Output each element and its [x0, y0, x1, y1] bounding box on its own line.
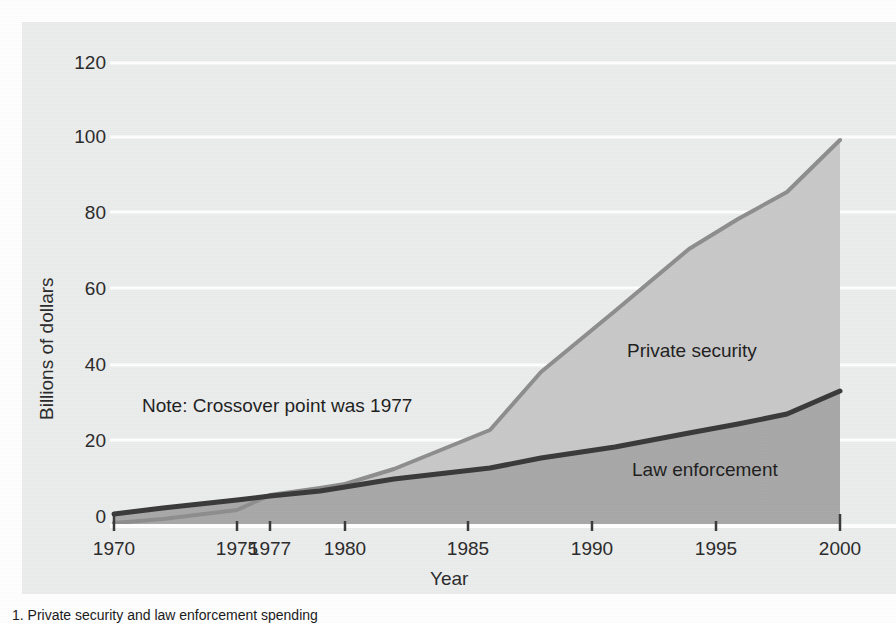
y-tick-label-80: 80 — [46, 202, 106, 224]
figure-caption: 1. Private security and law enforcement … — [12, 607, 318, 623]
figure-container: 120 100 80 60 40 20 0 1970 1975 1977 198… — [0, 0, 896, 623]
x-tick-label-1995: 1995 — [676, 538, 756, 560]
chart-plot-area — [0, 0, 896, 623]
x-tick-label-1985: 1985 — [428, 538, 508, 560]
y-tick-label-0: 0 — [46, 506, 106, 528]
y-tick-label-20: 20 — [46, 430, 106, 452]
x-tick-label-1980: 1980 — [305, 538, 385, 560]
x-tick-label-1970: 1970 — [74, 538, 154, 560]
x-tick-label-1977: 1977 — [230, 538, 310, 560]
x-tick-label-2000: 2000 — [800, 538, 880, 560]
y-tick-label-100: 100 — [46, 126, 106, 148]
y-axis-title: Billions of dollars — [36, 277, 58, 420]
y-tick-label-120: 120 — [46, 52, 106, 74]
series-label-law-enforcement: Law enforcement — [632, 459, 778, 481]
x-axis-title: Year — [430, 568, 468, 590]
series-label-private-security: Private security — [627, 340, 757, 362]
note-annotation: Note: Crossover point was 1977 — [142, 395, 412, 417]
x-tick-label-1990: 1990 — [552, 538, 632, 560]
